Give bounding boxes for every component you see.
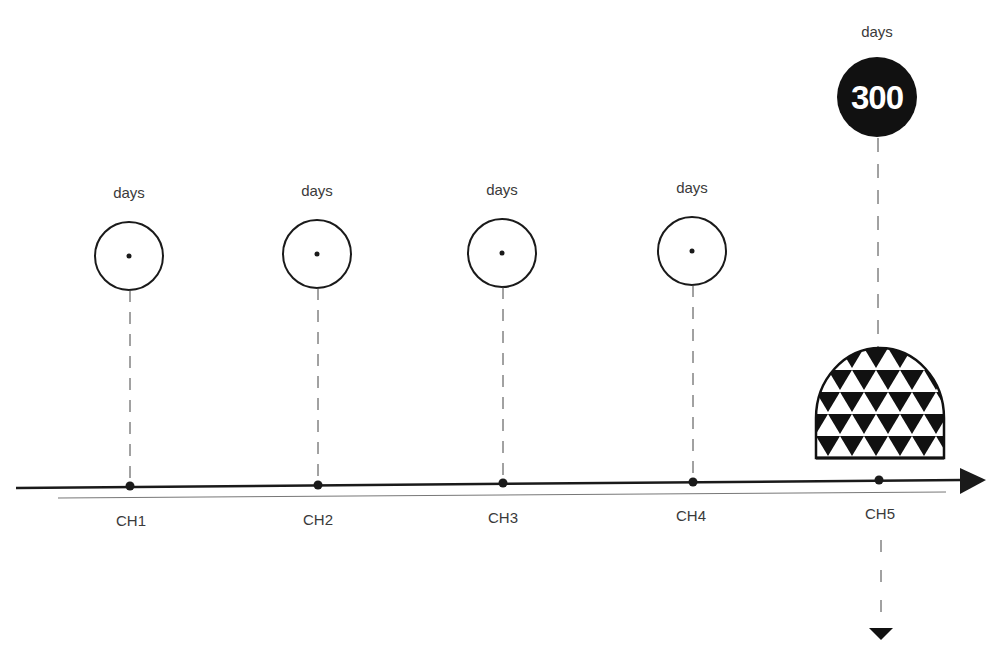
milestone-ch5 (816, 57, 944, 640)
milestone-ch2 (283, 220, 351, 490)
axis-arrow-right-icon (960, 468, 986, 494)
center-dot-icon (690, 249, 695, 254)
unit-label-ch2: days (301, 182, 333, 199)
center-dot-icon (500, 251, 505, 256)
axis-point (314, 481, 323, 490)
center-dot-icon (127, 254, 132, 259)
axis-label-ch5: CH5 (865, 505, 895, 522)
axis-point (689, 478, 698, 487)
axis-point (875, 476, 884, 485)
unit-label-ch4: days (676, 179, 708, 196)
timeline-axis (16, 480, 962, 488)
axis-label-ch4: CH4 (676, 507, 706, 524)
axis-point (499, 479, 508, 488)
axis-underline (58, 492, 946, 498)
axis-point (126, 482, 135, 491)
down-arrow-icon (869, 628, 893, 640)
unit-label-ch5: days (861, 23, 893, 40)
milestone-ch4 (658, 217, 726, 487)
milestone-ch3 (468, 219, 536, 488)
milestone-value-ch5: 300 (851, 79, 903, 117)
milestone-ch1 (95, 222, 163, 491)
axis-label-ch3: CH3 (488, 509, 518, 526)
center-dot-icon (315, 252, 320, 257)
unit-label-ch3: days (486, 181, 518, 198)
axis-label-ch2: CH2 (303, 511, 333, 528)
axis-label-ch1: CH1 (116, 512, 146, 529)
triangle-pattern-dome-icon (816, 348, 944, 458)
unit-label-ch1: days (113, 184, 145, 201)
